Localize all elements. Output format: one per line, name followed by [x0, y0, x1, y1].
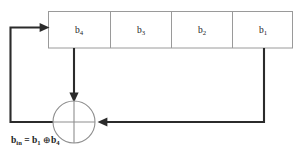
- tap-b1-line: [106, 48, 264, 122]
- feedback-xor-to-b4: [11, 23, 54, 122]
- register-outline: [49, 12, 293, 49]
- shift-register: b4 b3 b2 b1: [49, 12, 293, 49]
- feedback-line: [11, 28, 54, 123]
- tap-b1-to-xor: [98, 48, 265, 127]
- feedback-equation: bin = b1 ⊕b4: [11, 135, 60, 146]
- xor-gate: [53, 101, 95, 143]
- tap-b1-arrowhead-icon: [98, 117, 108, 126]
- tap-b4-to-xor: [69, 48, 78, 103]
- lfsr-diagram: b4 b3 b2 b1: [0, 0, 301, 156]
- lfsr-diagram-canvas: b4 b3 b2 b1: [0, 0, 301, 156]
